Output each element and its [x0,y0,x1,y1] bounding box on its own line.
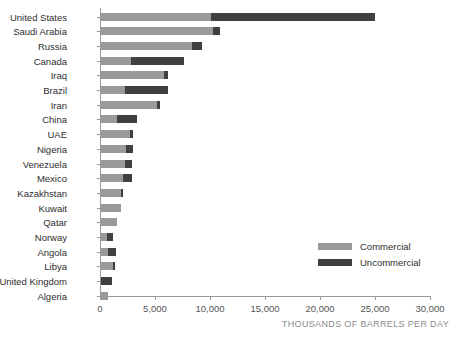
category-label: Brazil [0,86,67,96]
stacked-bar [100,13,375,21]
chart-row: United Kingdom [100,277,430,292]
stacked-bar [100,130,133,138]
bar-segment-uncommercial [131,57,184,65]
chart-legend: CommercialUncommercial [318,240,421,272]
stacked-bar [100,115,137,123]
bar-segment-commercial [100,130,130,138]
x-axis-tick-label: 15,000 [250,303,279,314]
x-axis-tick [155,296,156,300]
category-label: Algeria [0,292,67,302]
category-label: Libya [0,262,67,272]
legend-label: Commercial [360,242,411,252]
stacked-bar [100,57,184,65]
bar-segment-commercial [100,145,126,153]
bar-segment-commercial [100,42,192,50]
chart-row: Qatar [100,218,430,233]
category-label: UAE [0,130,67,140]
x-axis-caption: THOUSANDS OF BARRELS PER DAY [282,319,449,329]
bar-segment-commercial [100,218,117,226]
bar-segment-commercial [100,174,123,182]
category-label: Angola [0,248,67,258]
x-axis-tick-label: 20,000 [305,303,334,314]
bar-segment-uncommercial [211,13,375,21]
x-axis-tick-label: 0 [97,303,102,314]
category-label: Qatar [0,218,67,228]
x-axis-tick [265,296,266,300]
legend-item[interactable]: Uncommercial [318,256,421,269]
category-label: Kazakhstan [0,189,67,199]
stacked-bar [100,160,132,168]
category-label: Iran [0,101,67,111]
stacked-bar [100,86,168,94]
bar-segment-uncommercial [108,248,117,256]
stacked-bar [100,174,132,182]
x-axis-tick [320,296,321,300]
x-axis-tick-label: 30,000 [415,303,444,314]
stacked-bar [100,71,168,79]
bar-segment-commercial [100,27,213,35]
stacked-bar [100,218,117,226]
category-label: Norway [0,233,67,243]
chart-row: Nigeria [100,145,430,160]
x-axis-tick [210,296,211,300]
chart-row: Iraq [100,71,430,86]
stacked-bar [100,277,112,285]
bar-segment-commercial [100,57,131,65]
bar-segment-uncommercial [121,189,123,197]
chart-row: Canada [100,57,430,72]
chart-row: Kazakhstan [100,189,430,204]
stacked-bar [100,27,220,35]
chart-row: Saudi Arabia [100,27,430,42]
bar-segment-uncommercial [117,115,138,123]
bar-segment-uncommercial [130,130,133,138]
x-axis-tick-label: 25,000 [360,303,389,314]
bar-segment-uncommercial [192,42,202,50]
chart-row: United States [100,13,430,28]
chart-row: China [100,115,430,130]
stacked-bar [100,189,123,197]
legend-label: Uncommercial [360,258,421,268]
bar-segment-uncommercial [101,277,112,285]
bar-segment-commercial [100,233,107,241]
chart-row: Brazil [100,86,430,101]
stacked-bar [100,204,121,212]
category-label: Russia [0,42,67,52]
bar-segment-commercial [100,71,164,79]
x-axis-tick-label: 5,000 [143,303,167,314]
stacked-bar [100,145,133,153]
stacked-bar [100,292,108,300]
legend-item[interactable]: Commercial [318,240,421,253]
stacked-bar [100,233,113,241]
bar-segment-commercial [100,248,108,256]
category-label: Saudi Arabia [0,27,67,37]
legend-swatch-uncommercial [318,259,352,266]
bar-segment-commercial [100,101,157,109]
x-axis-tick [100,296,101,300]
x-axis-tick [430,296,431,300]
bar-segment-commercial [100,262,113,270]
bar-segment-uncommercial [123,174,132,182]
bar-segment-commercial [100,86,125,94]
bar-segment-uncommercial [164,71,168,79]
bar-segment-uncommercial [107,233,114,241]
category-label: United States [0,13,67,23]
bar-segment-commercial [100,292,108,300]
category-label: Iraq [0,71,67,81]
chart-row: Venezuela [100,160,430,175]
category-label: China [0,115,67,125]
chart-row: Iran [100,101,430,116]
bar-segment-uncommercial [125,160,132,168]
x-axis-tick-label: 10,000 [195,303,224,314]
bar-segment-uncommercial [213,27,220,35]
bar-segment-uncommercial [157,101,160,109]
category-label: United Kingdom [0,277,67,287]
bar-segment-uncommercial [113,262,115,270]
category-label: Mexico [0,174,67,184]
category-label: Kuwait [0,204,67,214]
bar-segment-commercial [100,160,125,168]
category-label: Nigeria [0,145,67,155]
chart-row: Kuwait [100,204,430,219]
bar-segment-uncommercial [126,145,133,153]
chart-row: Russia [100,42,430,57]
stacked-bar [100,42,202,50]
